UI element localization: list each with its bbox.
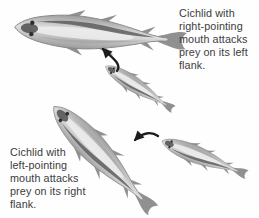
caption-line: right-pointing (179, 20, 259, 33)
caption-line: mouth attacks (10, 172, 112, 185)
caption-line: Cichlid with (179, 7, 259, 20)
caption-line: prey on its right (10, 185, 112, 198)
caption-left-pointing-cichlid: Cichlid with left-pointing mouth attacks… (10, 146, 112, 211)
attack-arrow-bottom (135, 133, 158, 140)
caption-line: Cichlid with (10, 146, 112, 159)
attacker-cichlid-bottom (157, 130, 251, 186)
caption-line: prey on its left (179, 46, 259, 59)
attacker-cichlid-top (100, 57, 180, 118)
caption-line: left-pointing (10, 159, 112, 172)
prey-fish-top (13, 4, 188, 64)
cichlid-attack-figure: Cichlid with right-pointing mouth attack… (0, 0, 259, 218)
caption-line: flank. (10, 198, 112, 211)
caption-right-pointing-cichlid: Cichlid with right-pointing mouth attack… (179, 7, 259, 72)
caption-line: mouth attacks (179, 33, 259, 46)
caption-line: flank. (179, 59, 259, 72)
